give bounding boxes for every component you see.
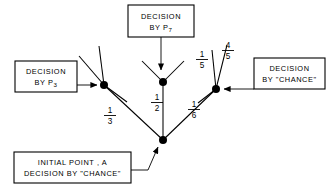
left-branch-up-inner (99, 46, 104, 85)
fraction-one-third-numerator: 1 (108, 106, 113, 115)
box-decision-by-chance-right-frame (254, 58, 325, 89)
fraction-one-half-denominator: 2 (155, 104, 160, 113)
box-decision-by-p3-line2-subscript: 3 (53, 81, 57, 88)
edge-initial-to-right-node (163, 89, 216, 140)
box-initial-point[interactable]: INITIAL POINT , A DECISION BY "CHANCE" (14, 152, 131, 183)
center-branch-up-left (142, 61, 163, 82)
node-initial-point[interactable] (159, 136, 167, 144)
right-branch-up-left (212, 50, 216, 89)
box-decision-by-p7-line1: DECISION (141, 12, 181, 21)
box-initial-point-line2: DECISION BY "CHANCE" (24, 169, 121, 178)
diagram-canvas: 1 3 1 2 1 6 1 5 4 (0, 0, 329, 192)
fraction-one-half: 1 2 (151, 93, 163, 113)
box-decision-by-chance-right-line2: BY "CHANCE" (262, 75, 316, 84)
left-branch-up-outer (79, 56, 104, 85)
node-left-p3[interactable] (100, 81, 108, 89)
fraction-one-fifth-denominator: 5 (200, 61, 205, 70)
box-decision-by-chance-right[interactable]: DECISION BY "CHANCE" (254, 58, 325, 89)
fraction-one-half-numerator: 1 (155, 93, 160, 102)
box-decision-by-p3-line1: DECISION (26, 67, 66, 76)
box-decision-by-p3-line2-prefix: BY P (35, 78, 54, 87)
node-right-chance[interactable] (212, 85, 220, 93)
game-tree-diagram: 1 3 1 2 1 6 1 5 4 (0, 0, 329, 192)
left-branch-down-right (104, 85, 127, 102)
fraction-four-fifths-denominator: 5 (226, 52, 231, 61)
box-decision-by-p7-line2-subscript: 7 (168, 26, 172, 33)
box-initial-point-line1: INITIAL POINT , A (38, 158, 107, 167)
fraction-one-sixth-denominator: 6 (192, 111, 197, 120)
center-branch-up-right (163, 61, 184, 82)
box-decision-by-chance-right-line1: DECISION (269, 64, 309, 73)
right-node-branch-labels: 1 5 4 5 (196, 41, 234, 70)
fraction-one-fifth: 1 5 (196, 50, 208, 70)
node-center-p7[interactable] (159, 78, 167, 86)
box-decision-by-p7[interactable]: DECISION BY P7 (128, 5, 194, 37)
box-decision-by-p7-frame (128, 5, 194, 37)
tree-edges (104, 82, 216, 140)
box-decision-by-p3-frame (15, 61, 77, 92)
fraction-one-fifth-numerator: 1 (200, 50, 205, 59)
fraction-four-fifths-numerator: 4 (226, 41, 231, 50)
fraction-one-third: 1 3 (104, 106, 116, 126)
left-node-branches (79, 46, 127, 102)
fraction-one-third-denominator: 3 (108, 117, 113, 126)
box-decision-by-p3[interactable]: DECISION BY P3 (15, 61, 77, 92)
fraction-one-sixth-numerator: 1 (192, 100, 197, 109)
leader-initial-to-initial-node (131, 147, 158, 170)
box-decision-by-p7-line2-prefix: BY P (150, 23, 169, 32)
tree-nodes (100, 78, 220, 144)
box-initial-point-frame (14, 152, 131, 183)
